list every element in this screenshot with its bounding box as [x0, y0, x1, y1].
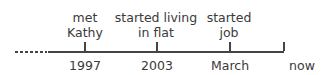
timeline-line [48, 51, 142, 53]
event-label-started-job: startedjob [207, 10, 252, 40]
axis-label-2003: 2003 [141, 58, 173, 73]
timeline-line [142, 51, 284, 53]
event-label-met-kathy: metKathy [67, 10, 103, 40]
axis-label-1997: 1997 [69, 58, 101, 73]
timeline-dashed-start [15, 51, 47, 53]
tick-now [283, 42, 285, 51]
tick-march [229, 42, 231, 51]
axis-label-march: March [211, 58, 249, 73]
axis-label-now: now [289, 58, 315, 73]
event-label-started-living: started livingin flat [115, 10, 197, 40]
tick-1997 [84, 42, 86, 51]
tick-2003 [156, 42, 158, 51]
